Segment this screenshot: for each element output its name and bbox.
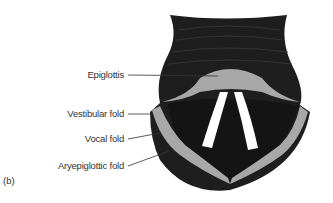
label-vestibular-fold: Vestibular fold	[67, 108, 124, 119]
label-epiglottis: Epiglottis	[87, 69, 124, 80]
label-vocal-fold: Vocal fold	[85, 133, 124, 144]
panel-label: (b)	[3, 175, 15, 186]
larynx-diagram	[0, 0, 333, 203]
label-aryepiglottic-fold: Aryepiglottic fold	[58, 160, 124, 171]
